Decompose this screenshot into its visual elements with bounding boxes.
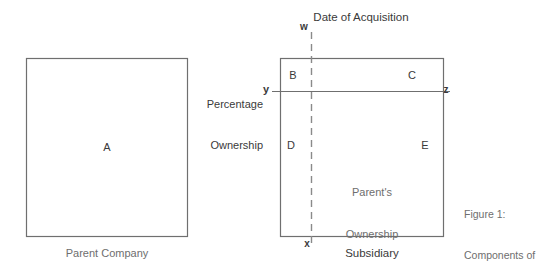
figure-caption-line-2: Components of bbox=[464, 249, 535, 263]
marker-label-z: z bbox=[444, 83, 449, 96]
region-label-c: C bbox=[408, 69, 416, 82]
region-label-e: E bbox=[421, 139, 428, 152]
figure-caption: Figure 1: Components of Consolidated Ret… bbox=[464, 181, 535, 270]
region-label-d: D bbox=[287, 139, 295, 152]
percentage-ownership-label: Percentage Ownership bbox=[173, 71, 263, 179]
parent-company-caption: Parent Company bbox=[66, 247, 149, 260]
figure-caption-line-1: Figure 1: bbox=[464, 208, 535, 222]
parents-ownership-label-line-2: Ownership bbox=[346, 227, 399, 241]
subsidiary-caption: Subsidiary bbox=[345, 247, 399, 260]
figure-container: A Parent Company Date of Acquisition Per… bbox=[0, 0, 553, 270]
percentage-ownership-label-line-1: Percentage bbox=[173, 98, 263, 112]
marker-label-w: w bbox=[300, 20, 308, 33]
marker-label-x: x bbox=[304, 237, 310, 250]
marker-label-y: y bbox=[263, 83, 269, 96]
region-label-b: B bbox=[289, 69, 296, 82]
parents-ownership-label-line-1: Parent's bbox=[346, 185, 399, 199]
date-of-acquisition-title: Date of Acquisition bbox=[313, 11, 408, 24]
percentage-ownership-label-line-2: Ownership bbox=[173, 139, 263, 153]
region-label-a: A bbox=[103, 141, 110, 154]
